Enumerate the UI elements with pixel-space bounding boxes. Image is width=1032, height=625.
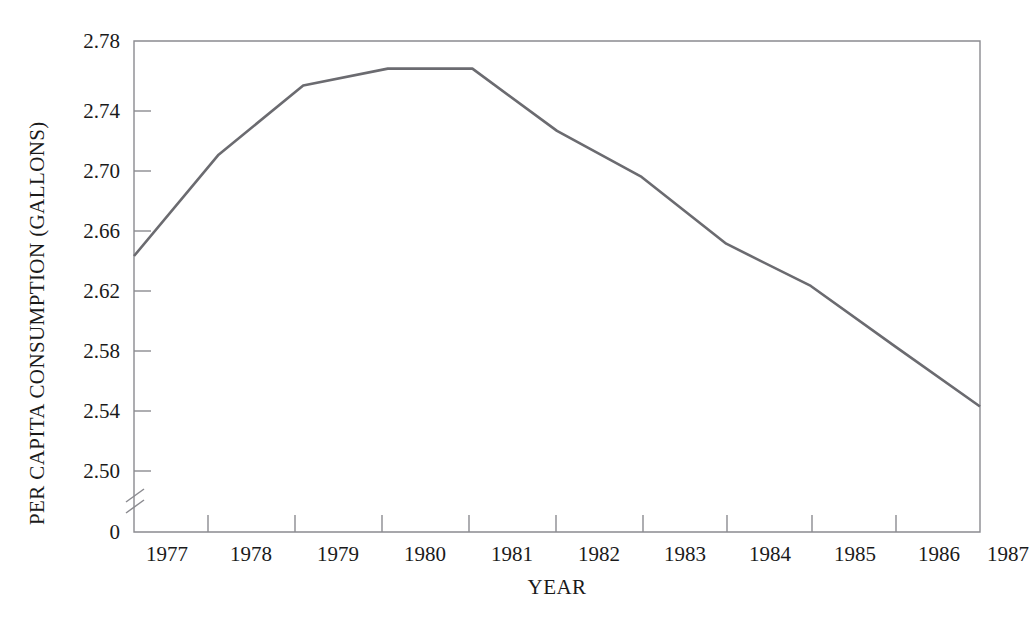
y-tick-label-2-58: 2.58 (83, 339, 120, 363)
plot-border (134, 41, 980, 532)
y-axis-ticks (134, 111, 151, 471)
x-axis-ticks (208, 515, 896, 532)
x-tick-label-1982: 1982 (578, 542, 620, 566)
y-axis-origin-label: 0 (110, 520, 121, 544)
x-tick-label-1985: 1985 (834, 542, 876, 566)
line-chart: 2.78 2.74 2.70 2.66 2.62 2.58 2.54 2.50 … (0, 0, 1032, 625)
y-axis-title: PER CAPITA CONSUMPTION (GALLONS) (25, 121, 49, 525)
y-tick-label-2-62: 2.62 (83, 279, 120, 303)
y-tick-label-2-70: 2.70 (83, 159, 120, 183)
chart-canvas: 2.78 2.74 2.70 2.66 2.62 2.58 2.54 2.50 … (0, 0, 1032, 625)
x-tick-label-1987: 1987 (987, 542, 1029, 566)
plot-frame (134, 41, 980, 532)
x-tick-label-1979: 1979 (317, 542, 359, 566)
y-tick-label-2-74: 2.74 (83, 99, 120, 123)
x-axis-tick-labels: 1977 1978 1979 1980 1981 1982 1983 1984 … (146, 542, 1029, 566)
x-tick-label-1984: 1984 (749, 542, 792, 566)
y-tick-label-2-66: 2.66 (83, 219, 120, 243)
y-tick-label-2-78: 2.78 (83, 29, 120, 53)
y-tick-label-2-50: 2.50 (83, 459, 120, 483)
y-tick-label-2-54: 2.54 (83, 399, 120, 423)
x-tick-label-1986: 1986 (918, 542, 960, 566)
x-axis-title: YEAR (528, 575, 587, 599)
y-axis-break-icon (126, 489, 144, 513)
y-axis-tick-labels: 2.78 2.74 2.70 2.66 2.62 2.58 2.54 2.50 … (83, 29, 120, 544)
x-tick-label-1981: 1981 (491, 542, 533, 566)
x-tick-label-1977: 1977 (146, 542, 188, 566)
data-series-line (134, 69, 980, 407)
x-tick-label-1980: 1980 (404, 542, 446, 566)
x-tick-label-1978: 1978 (230, 542, 272, 566)
x-tick-label-1983: 1983 (664, 542, 706, 566)
break-slash-upper (126, 489, 144, 502)
break-slash-lower (126, 500, 144, 513)
